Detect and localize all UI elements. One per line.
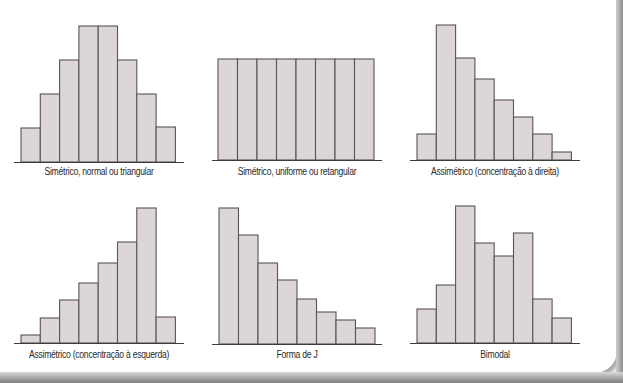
histogram-bar	[552, 318, 571, 343]
histogram-bar	[417, 309, 436, 343]
histogram-bars	[0, 0, 623, 383]
histogram-bar	[475, 243, 494, 343]
histogram-bar	[494, 256, 513, 343]
histogram-bar	[456, 206, 475, 343]
histogram-bar	[436, 285, 455, 343]
histogram-caption: Bimodal	[422, 349, 568, 360]
histogram-bar	[514, 233, 533, 343]
histogram-bar	[533, 299, 552, 343]
